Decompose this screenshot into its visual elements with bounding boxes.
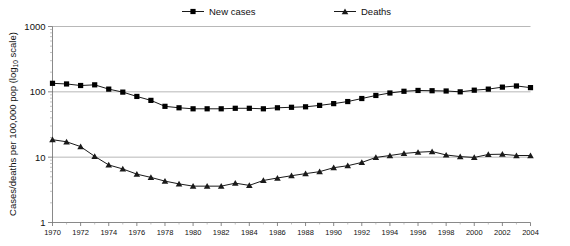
data-point: [358, 159, 365, 165]
legend-item[interactable]: Deaths: [334, 6, 391, 17]
x-tick-label: 2000: [466, 228, 483, 237]
data-point: [429, 88, 434, 93]
y-tick-label: 1: [40, 217, 45, 228]
legend-label: New cases: [209, 6, 256, 17]
y-axis-title: Cases/deaths per 100,000 pop (log10 scal…: [7, 32, 19, 216]
data-point: [247, 106, 252, 111]
data-point: [289, 105, 294, 110]
legend-label: Deaths: [361, 6, 391, 17]
data-point: [78, 83, 83, 88]
data-point: [373, 93, 378, 98]
x-tick-label: 1996: [410, 228, 427, 237]
x-tick-label: 1986: [269, 228, 286, 237]
chart-legend: New casesDeaths: [182, 6, 391, 17]
y-axis-title-main: Cases/deaths per 100,000 pop (log: [7, 67, 18, 215]
y-axis-title-tail: scale): [7, 32, 18, 60]
data-point: [232, 180, 239, 186]
data-point: [77, 144, 84, 150]
data-point: [120, 90, 125, 95]
data-point: [275, 105, 280, 110]
legend-item[interactable]: New cases: [182, 6, 256, 17]
data-point: [134, 94, 139, 99]
data-point: [233, 106, 238, 111]
series-line: [53, 140, 531, 186]
x-tick-label: 1980: [185, 228, 202, 237]
line-chart: 1101001000197019721974197619781980198219…: [0, 0, 570, 246]
x-tick-label: 1978: [157, 228, 174, 237]
data-point: [472, 88, 477, 93]
data-point: [176, 105, 181, 110]
data-point: [514, 83, 519, 88]
data-point: [261, 106, 266, 111]
data-point: [190, 106, 195, 111]
chart-figure: 1101001000197019721974197619781980198219…: [0, 0, 570, 246]
data-point: [105, 162, 112, 168]
x-tick-label: 2002: [494, 228, 511, 237]
x-tick-label: 1976: [129, 228, 146, 237]
y-ticks: 1101001000: [24, 21, 52, 228]
x-tick-label: 2004: [522, 228, 539, 237]
x-tick-label: 1988: [297, 228, 314, 237]
data-point: [92, 82, 97, 87]
x-tick-label: 1992: [353, 228, 370, 237]
data-point: [50, 81, 55, 86]
data-point: [106, 87, 111, 92]
series-new-cases: [50, 81, 533, 112]
series-deaths: [49, 137, 534, 189]
x-ticks: 1970197219741976197819801982198419861988…: [44, 223, 539, 238]
y-tick-label: 1000: [24, 21, 45, 32]
data-point: [528, 85, 533, 90]
x-tick-label: 1972: [72, 228, 89, 237]
data-point: [458, 89, 463, 94]
data-point: [317, 103, 322, 108]
data-point: [134, 171, 141, 177]
x-tick-label: 1970: [44, 228, 61, 237]
data-point: [500, 85, 505, 90]
legend-marker-square: [190, 9, 195, 14]
data-point: [387, 90, 392, 95]
y-tick-label: 100: [30, 86, 46, 97]
y-axis-title-text: Cases/deaths per 100,000 pop (log10 scal…: [7, 32, 19, 216]
data-point: [345, 99, 350, 104]
data-point: [486, 87, 491, 92]
data-point: [205, 106, 210, 111]
data-point: [359, 96, 364, 101]
x-tick-label: 1994: [382, 228, 399, 237]
x-tick-label: 1998: [438, 228, 455, 237]
x-tick-label: 1982: [213, 228, 230, 237]
data-point: [415, 88, 420, 93]
series-markers: [50, 81, 533, 112]
x-tick-label: 1984: [241, 228, 258, 237]
data-point: [331, 101, 336, 106]
data-point: [91, 153, 98, 159]
x-tick-label: 1974: [100, 228, 117, 237]
data-point: [219, 106, 224, 111]
x-tick-label: 1990: [325, 228, 342, 237]
series-markers: [49, 137, 534, 189]
y-axis-title-rotation: Cases/deaths per 100,000 pop (log10 scal…: [7, 32, 19, 216]
data-point: [303, 104, 308, 109]
data-point: [401, 89, 406, 94]
data-point: [444, 88, 449, 93]
data-point: [162, 104, 167, 109]
data-point: [148, 98, 153, 103]
y-tick-label: 10: [35, 152, 46, 163]
data-point: [64, 81, 69, 86]
